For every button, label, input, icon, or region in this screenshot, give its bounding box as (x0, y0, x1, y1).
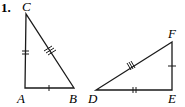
problem-number: 1. (1, 0, 11, 15)
congruent-triangles-figure: 1. C A B (0, 0, 185, 107)
triangle-def: F D E (87, 26, 177, 106)
vertex-label-a: A (16, 91, 25, 106)
vertex-label-d: D (87, 91, 98, 106)
vertex-label-b: B (69, 91, 77, 106)
vertex-label-c: C (22, 0, 31, 14)
vertex-label-e: E (167, 91, 176, 106)
triangle-abc: C A B (16, 0, 77, 106)
vertex-label-f: F (167, 26, 177, 41)
side-cb-triple-tick (44, 46, 56, 55)
